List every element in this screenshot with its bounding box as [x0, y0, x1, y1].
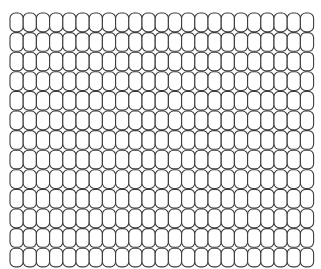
rounded-rect-tile [168, 209, 181, 228]
rounded-rect-tile [195, 52, 208, 71]
rounded-rect-tile [182, 189, 195, 208]
rounded-rect-tile [274, 131, 287, 150]
rounded-rect-tile [274, 52, 287, 71]
rounded-rect-tile [287, 91, 300, 110]
rounded-rect-tile [300, 189, 313, 208]
rounded-rect-tile [129, 72, 142, 91]
rounded-rect-tile [36, 13, 49, 32]
rounded-rect-tile [10, 131, 23, 150]
rounded-rect-tile [36, 72, 49, 91]
rounded-rect-tile [287, 248, 300, 267]
rounded-rect-tile [89, 52, 102, 71]
rounded-rect-tile [129, 13, 142, 32]
rounded-rect-tile [234, 150, 247, 169]
rounded-rect-tile [182, 150, 195, 169]
rounded-rect-tile [300, 33, 313, 52]
rounded-rect-tile [102, 33, 115, 52]
rounded-rect-tile [36, 111, 49, 130]
rounded-rect-tile [168, 248, 181, 267]
rounded-rect-tile [155, 72, 168, 91]
rounded-rect-tile [155, 13, 168, 32]
rounded-rect-tile [102, 72, 115, 91]
rounded-rect-tile [261, 248, 274, 267]
rounded-rect-tile [10, 33, 23, 52]
rounded-rect-tile [142, 72, 155, 91]
rounded-rect-tile [182, 111, 195, 130]
tile-group [10, 13, 314, 267]
rounded-rect-tile [261, 170, 274, 189]
rounded-rect-tile [50, 33, 63, 52]
rounded-rect-tile [274, 91, 287, 110]
rounded-rect-tile [182, 13, 195, 32]
rounded-rect-tile [142, 131, 155, 150]
rounded-rect-tile [155, 150, 168, 169]
rounded-rect-tile [208, 91, 221, 110]
rounded-rect-tile [50, 111, 63, 130]
rounded-rect-tile [182, 209, 195, 228]
rounded-rect-tile [261, 189, 274, 208]
rounded-rect-tile [248, 170, 261, 189]
rounded-rect-tile [23, 13, 36, 32]
rounded-rect-tile [76, 170, 89, 189]
rounded-rect-tile [36, 229, 49, 248]
rounded-rect-tile [116, 52, 129, 71]
rounded-rect-tile [155, 229, 168, 248]
rounded-rect-tile [116, 33, 129, 52]
rounded-rect-tile [129, 150, 142, 169]
rounded-rect-tile [50, 131, 63, 150]
rounded-rect-tile [76, 111, 89, 130]
rounded-rect-tile [116, 13, 129, 32]
rounded-rect-tile [168, 111, 181, 130]
rounded-rect-tile [168, 229, 181, 248]
rounded-rect-tile [182, 248, 195, 267]
rounded-rect-tile [142, 248, 155, 267]
rounded-rect-tile [50, 13, 63, 32]
rounded-rect-tile [234, 229, 247, 248]
rounded-rect-tile [102, 229, 115, 248]
rounded-rect-tile [142, 170, 155, 189]
rounded-rect-tile [248, 131, 261, 150]
rounded-rect-tile [208, 189, 221, 208]
rounded-rect-tile [274, 150, 287, 169]
rounded-rect-tile [234, 131, 247, 150]
rounded-rect-tile [261, 131, 274, 150]
rounded-rect-tile [274, 189, 287, 208]
rounded-rect-tile [274, 33, 287, 52]
rounded-rect-tile [234, 52, 247, 71]
rounded-rect-tile [182, 170, 195, 189]
rounded-rect-tile [50, 189, 63, 208]
rounded-rect-tile [89, 150, 102, 169]
rounded-rect-tile [221, 52, 234, 71]
rounded-rect-tile [261, 229, 274, 248]
rounded-rect-tile [248, 150, 261, 169]
rounded-rect-tile [50, 91, 63, 110]
rounded-rect-tile [155, 111, 168, 130]
rounded-rect-tile [300, 111, 313, 130]
rounded-rect-tile [116, 248, 129, 267]
rounded-rect-tile [10, 52, 23, 71]
rounded-rect-tile [248, 209, 261, 228]
rounded-rect-tile [287, 229, 300, 248]
rounded-rect-tile [221, 209, 234, 228]
rounded-rect-tile [89, 248, 102, 267]
rounded-rect-tile [102, 248, 115, 267]
rounded-rect-tile [274, 170, 287, 189]
rounded-rect-tile [50, 209, 63, 228]
rounded-rect-tile [142, 189, 155, 208]
rounded-rect-tile [195, 150, 208, 169]
rounded-rect-tile [287, 33, 300, 52]
rounded-rect-tile [89, 13, 102, 32]
rounded-rect-tile [102, 91, 115, 110]
rounded-rect-tile [50, 229, 63, 248]
rounded-rect-tile [248, 91, 261, 110]
rounded-rect-tile [89, 170, 102, 189]
rounded-rect-tile [89, 33, 102, 52]
rounded-rect-tile [63, 248, 76, 267]
rounded-rect-tile [36, 189, 49, 208]
rounded-rect-tile [221, 189, 234, 208]
rounded-rect-tile [208, 150, 221, 169]
rounded-rect-tile [287, 13, 300, 32]
rounded-rect-tile [76, 91, 89, 110]
rounded-rect-tile [102, 150, 115, 169]
rounded-rect-tile [300, 131, 313, 150]
